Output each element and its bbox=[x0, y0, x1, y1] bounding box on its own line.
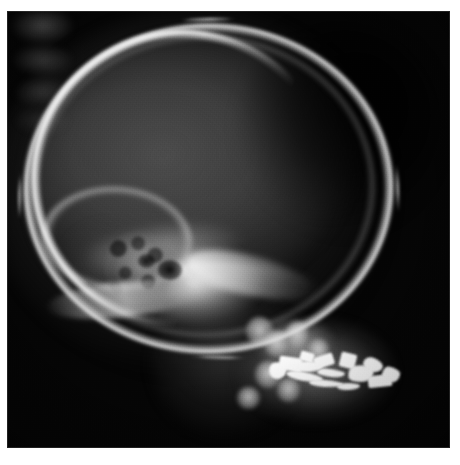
film-edge bbox=[7, 11, 450, 448]
radiograph-film bbox=[7, 11, 450, 448]
radiograph-viewer bbox=[0, 0, 460, 465]
